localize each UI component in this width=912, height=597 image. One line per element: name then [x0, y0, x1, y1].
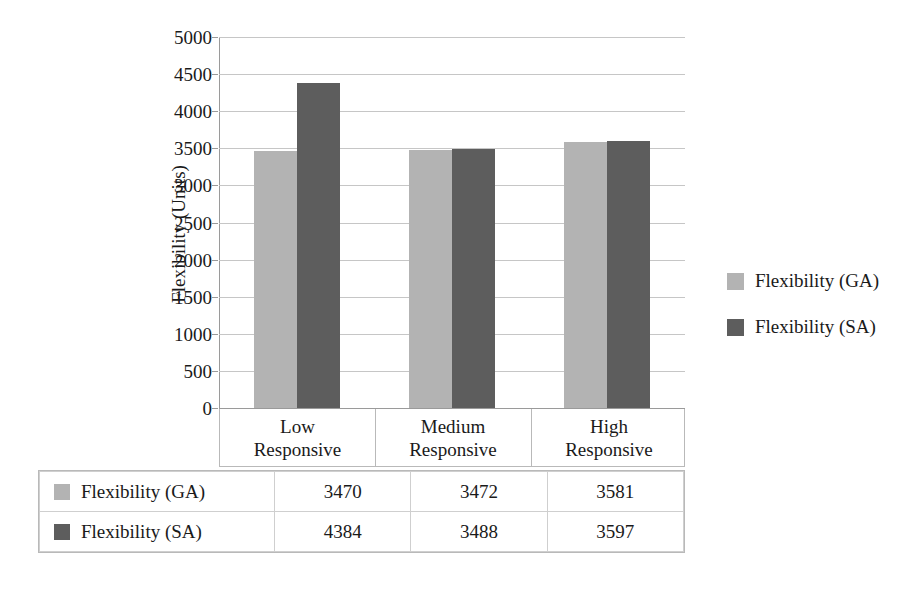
- data-table: Flexibility (GA)347034723581Flexibility …: [38, 470, 685, 553]
- plot-area: [219, 37, 685, 408]
- y-axis-tick-label: 4500: [174, 65, 212, 84]
- table-value-cell: 4384: [275, 512, 411, 552]
- y-axis-tick-mark: [212, 371, 218, 372]
- category-label: LowResponsive: [220, 409, 375, 466]
- category-label-line: Low: [280, 415, 315, 438]
- gridline: [219, 111, 685, 112]
- category-label-line: Responsive: [254, 438, 342, 461]
- category-label-line: Responsive: [409, 438, 497, 461]
- y-axis-tick-label: 1500: [174, 288, 212, 307]
- table-swatch-icon: [54, 484, 70, 500]
- table-swatch-icon: [54, 524, 70, 540]
- y-axis-tick-labels: 5000450040003500300025002000150010005000: [152, 37, 212, 408]
- y-axis-tick-label: 0: [203, 399, 213, 418]
- y-axis-title-holder: Flexibility (Units): [118, 90, 146, 350]
- y-axis-tick-label: 5000: [174, 28, 212, 47]
- legend-label: Flexibility (SA): [755, 316, 876, 338]
- legend-swatch-icon: [727, 273, 744, 290]
- legend-item: Flexibility (GA): [727, 258, 907, 304]
- legend-label: Flexibility (GA): [755, 270, 879, 292]
- y-axis-tick-label: 2000: [174, 251, 212, 270]
- chart-legend: Flexibility (GA)Flexibility (SA): [727, 258, 907, 350]
- table-row: Flexibility (GA)347034723581: [40, 472, 684, 512]
- category-axis: LowResponsiveMediumResponsiveHighRespons…: [219, 409, 685, 467]
- y-axis-tick-label: 2500: [174, 214, 212, 233]
- category-label: HighResponsive: [531, 409, 686, 466]
- bar: [297, 83, 340, 408]
- y-axis-tick-mark: [212, 334, 218, 335]
- category-label-line: High: [590, 415, 628, 438]
- table-value-cell: 3488: [411, 512, 547, 552]
- y-axis-tick-label: 3500: [174, 139, 212, 158]
- table-series-name-cell: Flexibility (GA): [40, 472, 275, 512]
- legend-swatch-icon: [727, 319, 744, 336]
- y-axis-tick-label: 3000: [174, 176, 212, 195]
- bar-chart: Flexibility (Units) 50004500400035003000…: [0, 0, 912, 597]
- table-value-cell: 3470: [275, 472, 411, 512]
- y-axis-tick-mark: [212, 111, 218, 112]
- bar: [409, 150, 452, 408]
- y-axis-tick-label: 4000: [174, 102, 212, 121]
- table-value-cell: 3472: [411, 472, 547, 512]
- y-axis-tick-mark: [212, 185, 218, 186]
- table-series-name-cell: Flexibility (SA): [40, 512, 275, 552]
- table-value-cell: 3597: [547, 512, 683, 552]
- gridline: [219, 37, 685, 38]
- y-axis-tick-mark: [212, 37, 218, 38]
- bar: [607, 141, 650, 408]
- table-series-label: Flexibility (GA): [81, 481, 205, 503]
- y-axis-tick-label: 500: [184, 362, 213, 381]
- y-axis-tick-mark: [212, 260, 218, 261]
- gridline: [219, 74, 685, 75]
- y-axis-tick-mark: [212, 74, 218, 75]
- bar: [452, 149, 495, 408]
- table-row: Flexibility (SA)438434883597: [40, 512, 684, 552]
- bar: [254, 151, 297, 408]
- table-series-label: Flexibility (SA): [81, 521, 202, 543]
- y-axis-tick-mark: [212, 297, 218, 298]
- y-axis-tick-mark: [212, 408, 218, 409]
- y-axis-tick-label: 1000: [174, 325, 212, 344]
- category-label: MediumResponsive: [375, 409, 530, 466]
- y-axis-tick-mark: [212, 223, 218, 224]
- category-label-line: Medium: [421, 415, 485, 438]
- table-value-cell: 3581: [547, 472, 683, 512]
- legend-item: Flexibility (SA): [727, 304, 907, 350]
- y-axis-tick-mark: [212, 148, 218, 149]
- category-label-line: Responsive: [565, 438, 653, 461]
- bar: [564, 142, 607, 408]
